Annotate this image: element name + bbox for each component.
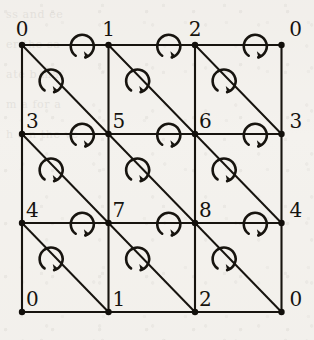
vertex-dot (105, 220, 111, 226)
vertex-label: 4 (290, 198, 303, 222)
arrow-upper-triangle (244, 124, 267, 148)
rotation-arc (157, 35, 180, 58)
rotation-arc (157, 213, 180, 236)
vertex-dot (105, 309, 111, 315)
vertex-label: 4 (26, 198, 39, 222)
orientation-arrows-group (40, 35, 267, 272)
vertex-label: 0 (26, 287, 39, 311)
vertex-dot (278, 42, 284, 48)
arrow-upper-triangle (244, 35, 267, 59)
arrow-upper-triangle (71, 213, 94, 237)
diagram-root: ss and eeer the saate b mam a for ah a n… (0, 0, 314, 340)
vertex-dot (192, 309, 198, 315)
vertex-dot (192, 42, 198, 48)
vertex-label: 6 (199, 109, 212, 133)
rotation-arc (71, 124, 94, 147)
rotation-arc (40, 158, 63, 181)
vertex-dot (105, 42, 111, 48)
vertex-label: 7 (113, 198, 126, 222)
arrow-upper-triangle (157, 213, 180, 237)
triangulated-grid-figure: 0120356347840120 (0, 0, 314, 340)
vertex-label: 5 (113, 109, 126, 133)
vertex-label: 2 (189, 17, 202, 41)
vertex-label: 2 (199, 287, 212, 311)
vertex-dot (192, 220, 198, 226)
vertex-label: 0 (289, 17, 302, 41)
vertex-dot (278, 131, 284, 137)
vertex-label: 1 (113, 287, 126, 311)
vertex-dot (19, 131, 25, 137)
vertex-label: 3 (26, 109, 39, 133)
arrow-upper-triangle (71, 124, 94, 148)
rotation-arc (71, 213, 94, 236)
arrow-lower-triangle (213, 247, 236, 271)
vertex-dot (19, 220, 25, 226)
vertex-dot (192, 131, 198, 137)
arrow-lower-triangle (126, 158, 149, 182)
vertex-label: 0 (290, 287, 303, 311)
rotation-arc (213, 158, 236, 181)
vertex-label: 3 (290, 109, 303, 133)
vertex-dot (278, 220, 284, 226)
vertex-dot (105, 131, 111, 137)
rotation-arc (71, 35, 94, 58)
rotation-arc (244, 213, 267, 236)
arrow-lower-triangle (213, 69, 236, 93)
arrow-lower-triangle (126, 69, 149, 93)
arrow-lower-triangle (213, 158, 236, 182)
arrow-upper-triangle (157, 35, 180, 59)
arrow-lower-triangle (40, 69, 63, 93)
rotation-arc (213, 247, 236, 270)
arrow-lower-triangle (40, 247, 63, 271)
vertex-dot (278, 309, 284, 315)
vertex-label: 0 (16, 17, 29, 41)
rotation-arc (126, 247, 149, 270)
vertex-dot (19, 42, 25, 48)
arrow-upper-triangle (244, 213, 267, 237)
rotation-arc (40, 69, 63, 92)
arrow-lower-triangle (126, 247, 149, 271)
rotation-arc (40, 247, 63, 270)
rotation-arc (244, 124, 267, 147)
rotation-arc (126, 158, 149, 181)
rotation-arc (244, 35, 267, 58)
arrow-upper-triangle (157, 124, 180, 148)
arrow-upper-triangle (71, 35, 94, 59)
vertex-dot (19, 309, 25, 315)
rotation-arc (213, 69, 236, 92)
vertex-label: 8 (199, 198, 212, 222)
rotation-arc (126, 69, 149, 92)
vertex-label: 1 (102, 17, 115, 41)
arrow-lower-triangle (40, 158, 63, 182)
rotation-arc (157, 124, 180, 147)
